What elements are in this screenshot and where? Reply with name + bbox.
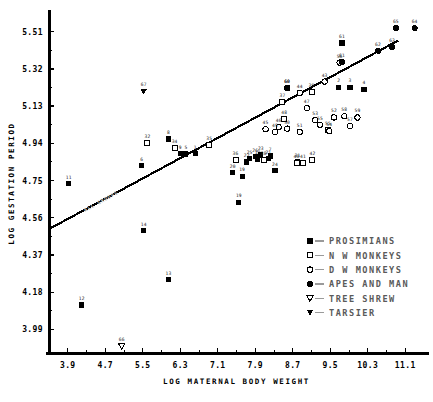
data-point-open-circle [272, 129, 277, 134]
y-tick-label: 5.51 [22, 28, 43, 37]
legend-label: D W MONKEYS [329, 265, 402, 275]
legend-marker-open-square [308, 253, 313, 258]
data-point-label: 1 [194, 145, 197, 150]
data-point-label: 40 [294, 154, 300, 159]
y-tick-label: 4.75 [22, 177, 43, 186]
y-tick-label: 3.99 [22, 325, 43, 334]
x-tick-label: 6.3 [172, 361, 188, 370]
data-point-label: 6 [140, 157, 143, 162]
data-point-label: 59 [354, 108, 360, 113]
data-point-label: 20 [230, 164, 236, 169]
x-tick-label: 8.7 [285, 361, 301, 370]
data-point-label: 34 [172, 139, 178, 144]
data-point-label: 54 [326, 122, 332, 127]
data-point-label: 26 [252, 148, 258, 153]
data-point-open-circle [304, 105, 309, 110]
data-point-label: 3 [348, 78, 351, 83]
data-point-label: 43 [322, 73, 328, 78]
data-point-label: 61 [339, 34, 345, 39]
data-point-label: 41 [300, 154, 306, 159]
data-point-open-circle [284, 126, 289, 131]
data-point-filled-square [66, 181, 71, 186]
data-point-label: 57 [347, 117, 353, 122]
data-point-label: 64 [412, 19, 418, 24]
data-point-label: 60 [284, 79, 290, 84]
x-tick-label: 11.1 [395, 361, 416, 370]
data-point-label: 42 [309, 151, 315, 156]
page-caption-fragment [0, 392, 433, 402]
data-point-label: 36 [233, 151, 239, 156]
legend-marker-open-circle [307, 267, 312, 272]
data-point-label: 14 [141, 222, 147, 227]
data-point-filled-square [236, 200, 241, 205]
y-tick-label: 4.37 [22, 251, 43, 260]
x-tick-label: 4.7 [97, 361, 113, 370]
data-point-label: 52 [331, 108, 337, 113]
data-point-open-circle [297, 129, 302, 134]
legend-marker-filled-square [307, 238, 312, 243]
data-point-label: 24 [272, 162, 278, 167]
data-point-open-circle [297, 90, 302, 95]
data-point-label: 63 [389, 38, 395, 43]
data-point-label: 32 [144, 134, 150, 139]
data-point-label: 19 [236, 193, 242, 198]
x-tick-label: 5.5 [135, 361, 151, 370]
data-point-label: 11 [66, 175, 72, 180]
y-tick-label: 5.32 [22, 65, 43, 74]
x-tick-label: 9.5 [322, 361, 338, 370]
data-point-label: 65 [393, 19, 399, 24]
data-point-open-circle [317, 122, 322, 127]
data-point-open-circle [342, 114, 347, 119]
data-point-filled-circle [393, 25, 399, 31]
data-point-label: 55 [317, 116, 323, 121]
data-point-filled-square [183, 151, 188, 156]
y-tick-label: 4.18 [22, 288, 43, 297]
data-point-open-square [207, 142, 212, 147]
data-point-filled-square [141, 228, 146, 233]
data-point-label: 58 [341, 107, 347, 112]
legend-label: N W MONKEYS [329, 251, 402, 261]
data-point-filled-triangle-down [140, 89, 147, 95]
data-point-label: 49 [272, 123, 278, 128]
data-point-label: 35 [206, 136, 212, 141]
data-point-label: 19 [239, 167, 245, 172]
data-point-label: 5 [184, 145, 187, 150]
data-point-open-circle [263, 127, 268, 132]
x-tick-label: 3.9 [60, 361, 76, 370]
data-point-label: 50 [284, 120, 290, 125]
data-point-label: 62 [375, 42, 381, 47]
y-tick-label: 4.56 [22, 214, 43, 223]
legend-label: PROSIMIANS [329, 236, 396, 246]
data-point-label: 12 [79, 296, 85, 301]
y-tick-label: 4.94 [22, 139, 43, 148]
data-point-filled-square [347, 85, 352, 90]
data-point-open-triangle-down [118, 344, 124, 350]
data-point-label: 38 [261, 151, 267, 156]
legend-label: TARSIER [329, 308, 376, 318]
x-tick-label: 7.9 [247, 361, 263, 370]
scatter-plot-figure: 3.94.75.56.37.17.98.79.510.311.13.994.18… [0, 0, 433, 402]
legend-marker-filled-circle [307, 281, 313, 287]
data-point-open-square [294, 161, 299, 166]
data-point-filled-square [193, 151, 198, 156]
data-point-filled-circle [284, 85, 290, 91]
data-point-label: 45 [263, 120, 269, 125]
data-point-filled-square [272, 168, 277, 173]
data-point-open-square [172, 145, 177, 150]
data-point-filled-square [166, 277, 171, 282]
x-tick-label: 10.3 [357, 361, 378, 370]
x-tick-label: 7.1 [210, 361, 226, 370]
data-point-open-square [261, 157, 266, 162]
data-point-open-circle [331, 115, 336, 120]
data-point-filled-square [336, 85, 341, 90]
data-point-label: 37 [279, 93, 285, 98]
data-point-label: 67 [141, 82, 147, 87]
data-point-label: 13 [166, 271, 172, 276]
data-point-label: 4 [363, 80, 366, 85]
data-point-filled-circle [389, 44, 395, 50]
data-point-open-square [145, 141, 150, 146]
data-point-label: 8 [167, 130, 170, 135]
data-point-open-square [233, 157, 238, 162]
data-point-open-circle [355, 115, 360, 120]
plot-canvas: 3.94.75.56.37.17.98.79.510.311.13.994.18… [0, 0, 433, 402]
